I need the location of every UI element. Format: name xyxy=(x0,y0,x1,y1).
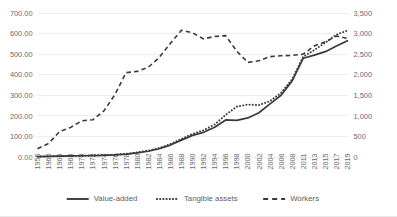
x-axis-tick-label: 2013 xyxy=(310,154,319,170)
x-axis-tick-label: 2006 xyxy=(277,154,286,170)
left-axis-tick-label: 500.00 xyxy=(10,50,33,59)
x-axis-tick-label: 1984 xyxy=(155,154,164,170)
line-chart: 0.00100.00200.00300.00400.00500.00600.00… xyxy=(0,0,397,217)
x-axis-tick-label: 2008 xyxy=(288,154,297,170)
x-axis-tick-label: 1994 xyxy=(210,154,219,170)
x-axis-tick-label: 2011 xyxy=(299,154,308,169)
x-axis-tick-label: 1990 xyxy=(188,154,197,170)
series-workers xyxy=(38,30,348,148)
x-axis-tick-label: 2000 xyxy=(243,154,252,170)
legend-label-tangible-assets: Tangible assets xyxy=(184,194,238,203)
right-axis-labels: 05001,0001,5002,0002,5003,0003,500 xyxy=(354,9,373,162)
legend-label-value-added: Value-added xyxy=(94,194,138,203)
right-axis-tick-label: 1,500 xyxy=(354,91,373,100)
left-axis-tick-label: 700.00 xyxy=(10,9,33,18)
x-axis-tick-label: 1986 xyxy=(166,154,175,170)
left-axis-tick-label: 600.00 xyxy=(10,29,33,38)
right-axis-tick-label: 2,000 xyxy=(354,70,373,79)
x-axis-tick-label: 2019 xyxy=(343,154,352,170)
series-tangible-assets xyxy=(38,30,348,156)
left-axis-tick-label: 300.00 xyxy=(10,91,33,100)
series-value-added xyxy=(38,41,348,157)
x-axis-tick-label: 2017 xyxy=(332,154,341,170)
left-axis-tick-label: 200.00 xyxy=(10,112,33,121)
right-axis-tick-label: 500 xyxy=(354,132,366,141)
right-axis-tick-label: 3,500 xyxy=(354,9,373,18)
x-axis-tick-label: 1988 xyxy=(177,154,186,170)
left-axis-tick-label: 0.00 xyxy=(18,153,32,162)
x-axis-tick-label: 1992 xyxy=(199,154,208,170)
right-axis-tick-label: 2,500 xyxy=(354,50,373,59)
legend-label-workers: Workers xyxy=(290,194,319,203)
x-axis-tick-label: 1978 xyxy=(122,154,131,170)
left-axis-tick-label: 100.00 xyxy=(10,132,33,141)
x-axis-tick-label: 1998 xyxy=(232,154,241,170)
data-series xyxy=(38,30,348,156)
x-axis-tick-label: 1982 xyxy=(144,154,153,170)
right-axis-tick-label: 0 xyxy=(354,153,358,162)
x-axis-tick-label: 2002 xyxy=(255,154,264,170)
left-axis-labels: 0.00100.00200.00300.00400.00500.00600.00… xyxy=(10,9,33,162)
x-axis-tick-label: 2004 xyxy=(266,154,275,170)
right-axis-tick-label: 1,000 xyxy=(354,112,373,121)
chart-legend: Value-addedTangible assetsWorkers xyxy=(67,194,319,203)
x-axis-tick-label: 1996 xyxy=(221,154,230,170)
chart-container: 0.00100.00200.00300.00400.00500.00600.00… xyxy=(0,0,397,217)
x-axis-tick-label: 1980 xyxy=(133,154,142,170)
right-axis-tick-label: 3,000 xyxy=(354,29,373,38)
left-axis-tick-label: 400.00 xyxy=(10,70,33,79)
x-axis-tick-label: 2015 xyxy=(321,154,330,170)
